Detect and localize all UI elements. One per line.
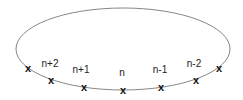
x-marker-icon: x [25,62,32,74]
x-marker-icon: x [81,81,88,93]
node-label-n-plus-2: n+2 [42,58,59,69]
x-marker-icon: x [158,81,165,93]
ring-diagram: x n+2 x n+1 x n x n-1 x n-2 x x [0,0,243,100]
x-marker-icon: x [48,74,55,86]
node-label-n-minus-2: n-2 [187,58,202,69]
x-marker-icon: x [193,74,200,86]
node-label-n: n [119,67,125,78]
x-marker-icon: x [216,62,223,74]
node-label-n-minus-1: n-1 [153,64,168,75]
node-label-n-plus-1: n+1 [73,64,90,75]
x-marker-icon: x [120,84,127,96]
